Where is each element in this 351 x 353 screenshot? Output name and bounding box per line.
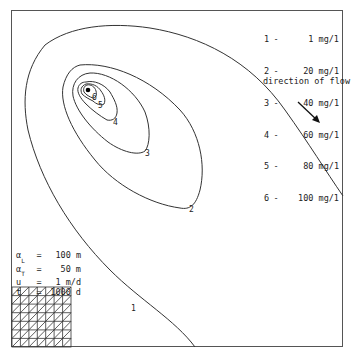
contour-label-4: 4 — [113, 118, 118, 127]
parameters: αL=100 m αT=50 m u=1 m/d t=1000 d — [16, 250, 81, 297]
contour-label-1: 1 — [131, 304, 136, 313]
legend-item: 6-100 mg/1 — [259, 193, 339, 204]
legend-item: 2-20 mg/1 — [259, 66, 339, 77]
contour-label-6: 6 — [92, 93, 97, 102]
contour-label-2: 2 — [189, 205, 194, 214]
param-alpha-l: αL=100 m — [16, 250, 81, 264]
legend-item: 3-40 mg/1 — [259, 98, 339, 109]
contour-label-5: 5 — [98, 101, 103, 110]
flow-direction-label: direction of flow — [263, 76, 350, 86]
param-time: t=1000 d — [16, 287, 81, 297]
contour-2 — [63, 65, 203, 209]
legend-item: 1-1 mg/1 — [259, 34, 339, 45]
legend-item: 4-60 mg/1 — [259, 130, 339, 141]
legend-item: 5-80 mg/1 — [259, 161, 339, 172]
param-velocity: u=1 m/d — [16, 277, 81, 287]
legend: 1-1 mg/1 2-20 mg/1 3-40 mg/1 4-60 mg/1 5… — [259, 13, 339, 214]
contour-label-3: 3 — [145, 149, 150, 158]
param-alpha-t: αT=50 m — [16, 264, 81, 278]
source-point — [86, 88, 91, 93]
contour-labels: 1 2 3 4 5 6 — [92, 93, 194, 313]
